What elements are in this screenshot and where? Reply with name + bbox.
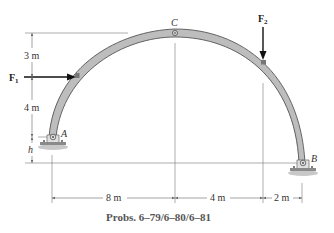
- dim-3m: 3 m: [24, 50, 40, 61]
- dim-4m-horizontal: 4 m: [210, 192, 226, 203]
- arch-diagram: C A B F1 F2: [0, 0, 334, 233]
- label-c: C: [171, 17, 178, 28]
- label-f1: F1: [9, 72, 19, 85]
- label-f2: F2: [258, 13, 268, 26]
- label-a: A: [60, 128, 68, 139]
- force-f2-arrow: [260, 27, 267, 65]
- figure-caption: Probs. 6–79/6–80/6–81: [106, 211, 211, 223]
- dim-4m-vertical: 4 m: [24, 102, 40, 113]
- dim-h: h: [28, 144, 33, 155]
- pin-c: [172, 30, 177, 35]
- reference-lines: [25, 33, 302, 203]
- dim-8m: 8 m: [106, 192, 122, 203]
- label-b: B: [311, 153, 317, 164]
- arch-member: [49, 29, 305, 163]
- dim-2m: 2 m: [274, 192, 290, 203]
- horizontal-dimension-line: [52, 197, 302, 199]
